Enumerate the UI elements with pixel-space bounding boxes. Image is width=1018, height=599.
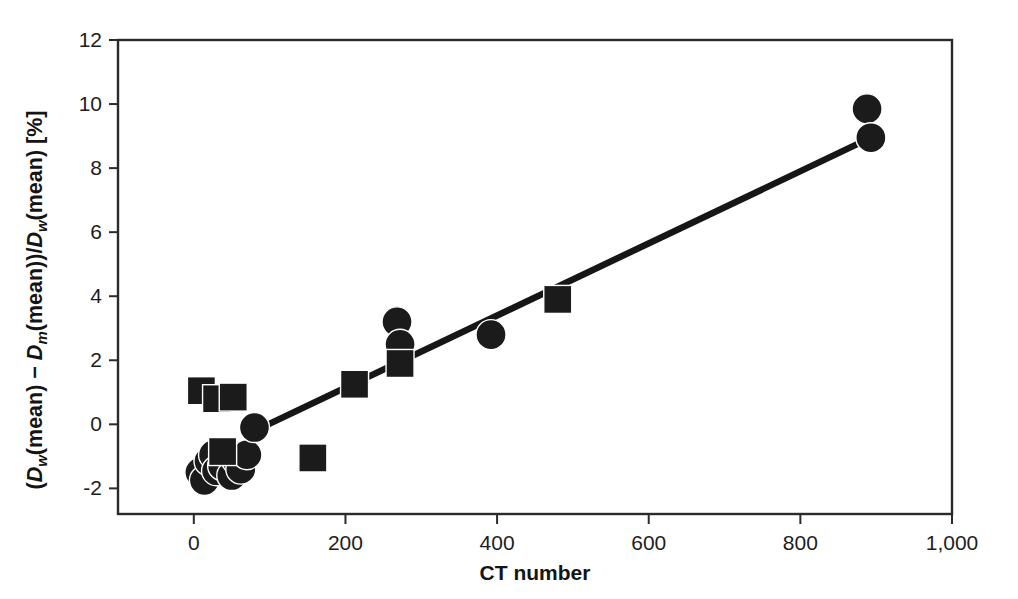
data-point-square: [299, 444, 327, 472]
x-axis-title: CT number: [480, 561, 591, 584]
data-point-square: [386, 349, 414, 377]
data-point-circle: [476, 320, 506, 350]
scatter-chart: -2024681012 02004006008001,000 CT number…: [0, 0, 1018, 599]
ylabel-units: [%]: [23, 111, 47, 150]
x-tick-label: 400: [480, 531, 515, 554]
y-tick-labels: -2024681012: [79, 28, 103, 499]
x-tick-label: 1,000: [926, 531, 979, 554]
data-point-circle: [852, 94, 882, 124]
y-tick-label: 2: [90, 348, 102, 371]
ylabel-sub-m: m: [33, 331, 50, 344]
data-point-square: [544, 285, 572, 313]
ylabel-minus: −: [23, 360, 47, 385]
y-axis-ticks: [109, 40, 118, 488]
x-tick-label: 200: [328, 531, 363, 554]
data-point-circle: [239, 413, 269, 443]
ylabel-mean-1: (mean): [23, 385, 47, 455]
ylabel-mean-3: (mean): [23, 150, 47, 220]
svg-text:(Dw(mean) − Dm(mean))/Dw(mean): (Dw(mean) − Dm(mean))/Dw(mean) [%]: [23, 111, 50, 490]
x-tick-labels: 02004006008001,000: [188, 531, 978, 554]
x-tick-label: 600: [631, 531, 666, 554]
x-axis-ticks: [194, 514, 952, 524]
y-tick-label: 0: [90, 412, 102, 435]
x-tick-label: 0: [188, 531, 200, 554]
y-tick-label: 4: [90, 284, 102, 307]
ylabel-dw-2: D: [23, 232, 47, 248]
y-tick-label: -2: [83, 476, 102, 499]
y-tick-label: 8: [90, 156, 102, 179]
x-tick-label: 800: [783, 531, 818, 554]
ylabel-mean-2: (mean)): [23, 254, 47, 332]
figure-root: -2024681012 02004006008001,000 CT number…: [0, 0, 1018, 599]
y-tick-label: 10: [79, 92, 102, 115]
data-point-square: [341, 370, 369, 398]
data-point-circle: [856, 123, 886, 153]
data-point-square: [219, 383, 247, 411]
y-tick-label: 6: [90, 220, 102, 243]
ylabel-dw-1: D: [23, 467, 47, 483]
data-point-square: [209, 438, 237, 466]
ylabel-dm: D: [23, 345, 47, 361]
y-axis-title: (Dw(mean) − Dm(mean))/Dw(mean) [%]: [23, 111, 50, 490]
y-tick-label: 12: [79, 28, 102, 51]
